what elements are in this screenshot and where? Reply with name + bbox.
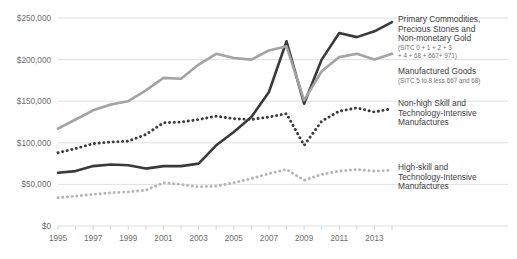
legend-label-0: Primary Commodities, xyxy=(398,14,480,24)
legend-label-2: Non-high Skill and xyxy=(398,98,466,108)
chart-container: $0$50,000$100,000$150,000$200,000$250,00… xyxy=(0,0,517,259)
x-axis-tick-label: 2005 xyxy=(225,234,244,243)
x-axis-tick-label: 2011 xyxy=(330,234,348,243)
y-axis-tick-label: $50,000 xyxy=(21,180,51,189)
series-line-0 xyxy=(58,22,392,173)
legend-label-3: Technology-Intensive xyxy=(398,172,477,182)
y-axis-tick-label: $100,000 xyxy=(17,139,52,148)
x-axis-tick-label: 1999 xyxy=(119,234,138,243)
legend-label-1: Manufactured Goods xyxy=(398,66,476,76)
y-axis-tick-label: $250,000 xyxy=(17,14,52,23)
legend-sublabel-0: + 4 + 68 + 667+ 971) xyxy=(398,52,457,60)
legend-label-3: High-skill and xyxy=(398,162,449,172)
y-axis-tick-label: $150,000 xyxy=(17,97,52,106)
x-axis-tick-label: 2009 xyxy=(295,234,314,243)
x-axis-tick-label: 2001 xyxy=(154,234,173,243)
y-axis-tick-label: $0 xyxy=(42,222,52,231)
legend-label-3: Manufactures xyxy=(398,181,449,191)
legend-label-0: Precious Stones and xyxy=(398,24,476,34)
y-axis-tick-label: $200,000 xyxy=(17,56,52,65)
legend-sublabel-1: (SITC 5 to 8 less 667 and 68) xyxy=(398,77,480,85)
x-axis-tick-label: 2013 xyxy=(365,234,384,243)
line-chart: $0$50,000$100,000$150,000$200,000$250,00… xyxy=(0,0,517,259)
x-axis-tick-label: 1995 xyxy=(49,234,68,243)
legend-label-2: Manufactures xyxy=(398,117,449,127)
x-axis-tick-label: 2007 xyxy=(260,234,279,243)
series-line-2 xyxy=(58,108,392,153)
x-axis-tick-label: 2003 xyxy=(190,234,209,243)
x-axis-tick-label: 1997 xyxy=(84,234,103,243)
legend-label-2: Technology-Intensive xyxy=(398,108,477,118)
legend-label-0: Non-monetary Gold xyxy=(398,33,471,43)
series-line-3 xyxy=(58,169,392,197)
